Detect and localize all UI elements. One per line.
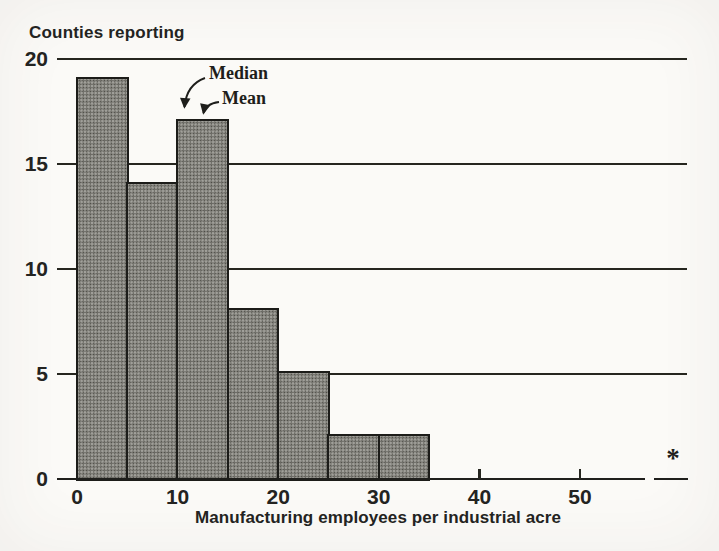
x-tick-mark-50	[579, 469, 581, 479]
gridline-y-15	[57, 163, 687, 165]
gridline-y-20	[57, 58, 687, 60]
scanned-histogram-page: Counties reporting 05101520 01020304050 …	[0, 0, 719, 551]
x-tick-label-0: 0	[55, 486, 99, 508]
y-tick-label-0: 0	[6, 467, 48, 491]
x-tick-label-50: 50	[558, 486, 602, 508]
median-arrow	[185, 78, 206, 107]
histogram-bar-5-10	[126, 182, 179, 480]
outlier-asterisk: *	[662, 445, 684, 472]
y-tick-label-15: 15	[6, 152, 48, 176]
y-axis-title: Counties reporting	[29, 23, 185, 43]
x-tick-label-20: 20	[256, 486, 300, 508]
histogram-bar-10-15	[176, 119, 229, 480]
median-annotation-label: Median	[209, 63, 268, 84]
x-tick-label-30: 30	[357, 486, 401, 508]
mean-arrow	[204, 102, 220, 113]
x-tick-label-40: 40	[457, 486, 501, 508]
histogram-bar-0-5	[76, 77, 129, 480]
histogram-bar-15-20	[227, 308, 280, 480]
mean-annotation-label: Mean	[222, 88, 266, 109]
x-axis-title: Manufacturing employees per industrial a…	[187, 508, 569, 528]
x-axis-line	[57, 478, 645, 481]
y-tick-label-5: 5	[6, 362, 48, 386]
x-axis-break-segment	[654, 478, 688, 481]
histogram-bar-30-35	[378, 434, 431, 480]
x-tick-mark-40	[478, 469, 480, 479]
y-tick-label-10: 10	[6, 257, 48, 281]
histogram-bar-20-25	[277, 371, 330, 480]
y-tick-label-20: 20	[6, 47, 48, 71]
x-tick-label-10: 10	[156, 486, 200, 508]
histogram-bar-25-30	[327, 434, 380, 480]
